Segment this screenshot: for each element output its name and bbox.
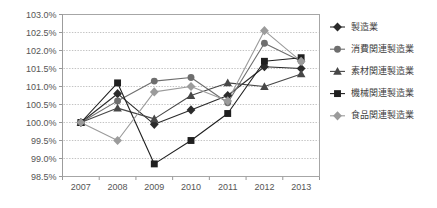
legend-marker-2 bbox=[334, 46, 341, 53]
legend-marker-4 bbox=[334, 90, 341, 97]
x-tick-label: 2010 bbox=[181, 182, 201, 192]
legend-item-5[interactable]: 食品関連製造業 bbox=[330, 109, 414, 120]
chart-figure: 98.5%99.0%99.5%100.0%100.5%101.0%101.5%1… bbox=[0, 0, 437, 208]
legend-item-4[interactable]: 機械関連製造業 bbox=[330, 87, 414, 98]
x-tick-label: 2007 bbox=[71, 182, 91, 192]
data-point-s3-2010 bbox=[187, 91, 196, 99]
data-point-s4-2008 bbox=[114, 79, 121, 86]
y-tick-label: 102.0% bbox=[26, 46, 57, 56]
x-tick-label: 2009 bbox=[144, 182, 164, 192]
y-tick-label: 101.5% bbox=[26, 64, 57, 74]
legend-item-3[interactable]: 素材関連製造業 bbox=[330, 65, 414, 76]
line-chart: 98.5%99.0%99.5%100.0%100.5%101.0%101.5%1… bbox=[0, 0, 437, 208]
x-axis-tickmarks bbox=[63, 177, 320, 181]
y-tick-label: 98.5% bbox=[31, 172, 57, 182]
data-point-s4-2011 bbox=[224, 110, 231, 117]
data-point-s1-2010 bbox=[187, 105, 196, 114]
data-point-s2-2012 bbox=[261, 40, 268, 47]
y-axis-tickmarks bbox=[59, 15, 63, 177]
legend-marker-1 bbox=[333, 22, 342, 31]
data-point-s3-2008 bbox=[113, 104, 122, 112]
x-tick-label: 2011 bbox=[218, 182, 237, 192]
x-tick-label: 2013 bbox=[291, 182, 311, 192]
legend-label-2: 消費関連製造業 bbox=[351, 43, 414, 54]
data-point-s3-2011 bbox=[223, 79, 232, 87]
y-axis-tick-labels: 98.5%99.0%99.5%100.0%100.5%101.0%101.5%1… bbox=[26, 10, 57, 182]
legend-item-2[interactable]: 消費関連製造業 bbox=[330, 43, 414, 54]
data-point-s4-2010 bbox=[188, 137, 195, 144]
legend-label-5: 食品関連製造業 bbox=[351, 109, 414, 120]
data-point-s4-2009 bbox=[151, 160, 158, 167]
data-point-s2-2009 bbox=[151, 78, 158, 85]
y-tick-label: 103.0% bbox=[26, 10, 57, 20]
x-tick-label: 2012 bbox=[254, 182, 274, 192]
data-point-s3-2013 bbox=[297, 70, 306, 78]
legend-label-3: 素材関連製造業 bbox=[351, 65, 414, 76]
legend-marker-5 bbox=[333, 111, 342, 120]
y-tick-label: 100.5% bbox=[26, 100, 57, 110]
y-tick-label: 99.5% bbox=[31, 136, 57, 146]
x-axis-tick-labels: 2007200820092010201120122013 bbox=[71, 182, 311, 192]
y-tick-label: 101.0% bbox=[26, 82, 57, 92]
y-tick-label: 102.5% bbox=[26, 28, 57, 38]
legend-item-1[interactable]: 製造業 bbox=[330, 21, 378, 32]
data-point-s5-2010 bbox=[187, 82, 196, 91]
data-point-s2-2008 bbox=[114, 97, 121, 104]
data-point-s2-2010 bbox=[188, 74, 195, 81]
series-markers bbox=[76, 26, 305, 167]
data-point-s4-2012 bbox=[261, 58, 268, 65]
y-tick-label: 99.0% bbox=[31, 154, 57, 164]
legend: 製造業消費関連製造業素材関連製造業機械関連製造業食品関連製造業 bbox=[330, 21, 414, 121]
legend-label-4: 機械関連製造業 bbox=[351, 87, 414, 98]
legend-label-1: 製造業 bbox=[351, 21, 378, 32]
y-tick-label: 100.0% bbox=[26, 118, 57, 128]
x-tick-label: 2008 bbox=[108, 182, 128, 192]
